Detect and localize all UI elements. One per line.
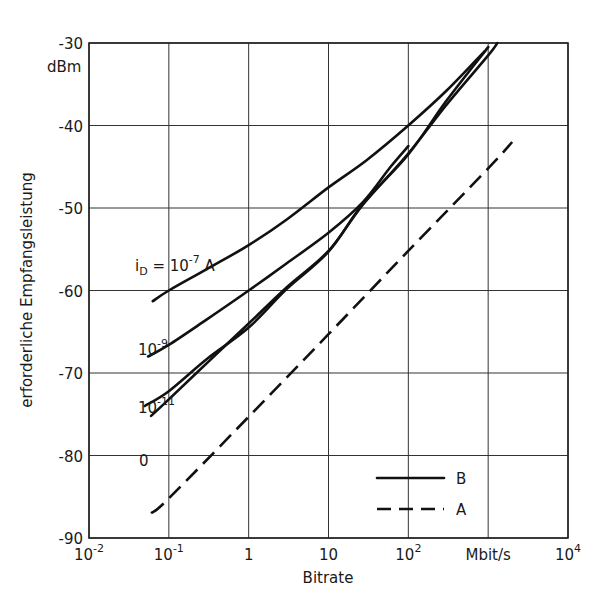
y-tick-label: -40 (59, 118, 84, 136)
series-line-4 (151, 142, 512, 513)
x-tick-label: 1 (244, 546, 254, 564)
curve-label: iD = 10-7 A (135, 253, 216, 278)
grid (89, 43, 568, 538)
y-unit-label: dBm (47, 58, 81, 76)
series-line-3 (151, 43, 497, 416)
y-axis-ticks: -30-40-50-60-70-80-90 (59, 35, 84, 548)
y-tick-label: -60 (59, 283, 84, 301)
x-tick-label: 10-1 (154, 542, 184, 564)
x-tick-label: 102 (395, 542, 421, 564)
legend: B A (377, 470, 467, 519)
y-axis-label: erforderliche Empfangsleistung (18, 172, 36, 407)
legend-label-b: B (456, 470, 466, 488)
curve-label: 10-11 (138, 395, 175, 417)
legend-label-a: A (456, 501, 467, 519)
x-tick-label: 10-2 (74, 542, 104, 564)
x-tick-label: Mbit/s (465, 546, 511, 564)
y-tick-label: -70 (59, 365, 84, 383)
x-axis-ticks: 10-210-1110102Mbit/s104 (74, 542, 581, 564)
y-tick-label: -80 (59, 448, 84, 466)
curve-label: 0 (139, 452, 149, 470)
series-line-1 (148, 146, 408, 356)
x-tick-label: 10 (319, 546, 338, 564)
y-tick-label: -50 (59, 200, 84, 218)
curve-label: 10-9 (138, 337, 168, 359)
chart: -30-40-50-60-70-80-90 10-210-1110102Mbit… (0, 0, 611, 616)
x-axis-label: Bitrate (303, 569, 354, 587)
x-tick-label: 104 (555, 542, 581, 564)
y-tick-label: -30 (59, 35, 84, 53)
